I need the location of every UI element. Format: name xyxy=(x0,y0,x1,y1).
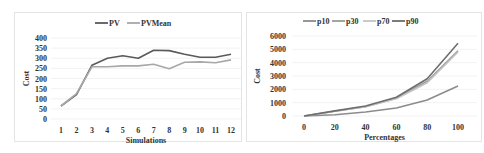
chart-percentages-panel: 0100020003000400050006000020406080100Per… xyxy=(246,12,482,142)
series-line-p70 xyxy=(304,52,458,116)
x-tick-label: 1 xyxy=(59,126,63,135)
x-tick-label: 4 xyxy=(105,126,109,135)
y-tick-label: 50 xyxy=(39,105,47,114)
y-axis-title: Cost xyxy=(253,68,262,84)
x-tick-label: 11 xyxy=(212,126,220,135)
x-axis-title: Percentages xyxy=(364,133,405,142)
x-tick-label: 5 xyxy=(121,126,125,135)
legend-label: p90 xyxy=(406,17,418,26)
x-tick-label: 3 xyxy=(90,126,94,135)
legend-label: PVMean xyxy=(141,19,172,28)
series-line-p90 xyxy=(304,43,458,116)
y-tick-label: 3000 xyxy=(270,72,286,81)
y-tick-label: 5000 xyxy=(270,45,286,54)
y-tick-label: 1000 xyxy=(270,99,286,108)
x-tick-label: 40 xyxy=(362,123,370,132)
y-tick-label: 150 xyxy=(35,85,47,94)
x-tick-label: 80 xyxy=(423,123,431,132)
y-tick-label: 6000 xyxy=(270,32,286,41)
y-tick-label: 100 xyxy=(35,95,47,104)
x-tick-label: 7 xyxy=(152,126,156,135)
y-tick-label: 400 xyxy=(35,34,47,43)
series-line-p30 xyxy=(304,51,458,116)
x-tick-label: 60 xyxy=(392,123,400,132)
y-tick-label: 250 xyxy=(35,64,47,73)
legend-label: PV xyxy=(109,19,120,28)
y-tick-label: 0 xyxy=(43,115,47,124)
y-tick-label: 0 xyxy=(282,112,286,121)
x-tick-label: 8 xyxy=(167,126,171,135)
x-tick-label: 100 xyxy=(452,123,464,132)
x-tick-label: 12 xyxy=(227,126,235,135)
y-axis-title: Cost xyxy=(22,70,31,86)
legend-item-pvmean: PVMean xyxy=(127,19,172,28)
y-tick-label: 350 xyxy=(35,44,47,53)
x-axis-title: Simulations xyxy=(126,136,166,145)
legend-item-p10: p10 xyxy=(303,17,329,26)
legend-item-p70: p70 xyxy=(363,17,389,26)
y-tick-label: 2000 xyxy=(270,85,286,94)
chart-simulations-plot: 050100150200250300350400123456789101112S… xyxy=(15,13,243,143)
legend-item-pv: PV xyxy=(95,19,120,28)
legend-item-p30: p30 xyxy=(332,17,358,26)
y-tick-label: 200 xyxy=(35,75,47,84)
legend-item-p90: p90 xyxy=(392,17,418,26)
y-tick-label: 300 xyxy=(35,54,47,63)
x-tick-label: 10 xyxy=(196,126,204,135)
x-tick-label: 6 xyxy=(136,126,140,135)
chart-simulations-panel: 050100150200250300350400123456789101112S… xyxy=(14,12,242,142)
chart-percentages-plot: 0100020003000400050006000020406080100Per… xyxy=(247,13,483,143)
x-tick-label: 0 xyxy=(302,123,306,132)
x-tick-label: 9 xyxy=(183,126,187,135)
legend-label: p10 xyxy=(317,17,329,26)
x-tick-label: 2 xyxy=(74,126,78,135)
x-tick-label: 20 xyxy=(331,123,339,132)
y-tick-label: 4000 xyxy=(270,59,286,68)
legend-label: p30 xyxy=(346,17,358,26)
legend-label: p70 xyxy=(377,17,389,26)
